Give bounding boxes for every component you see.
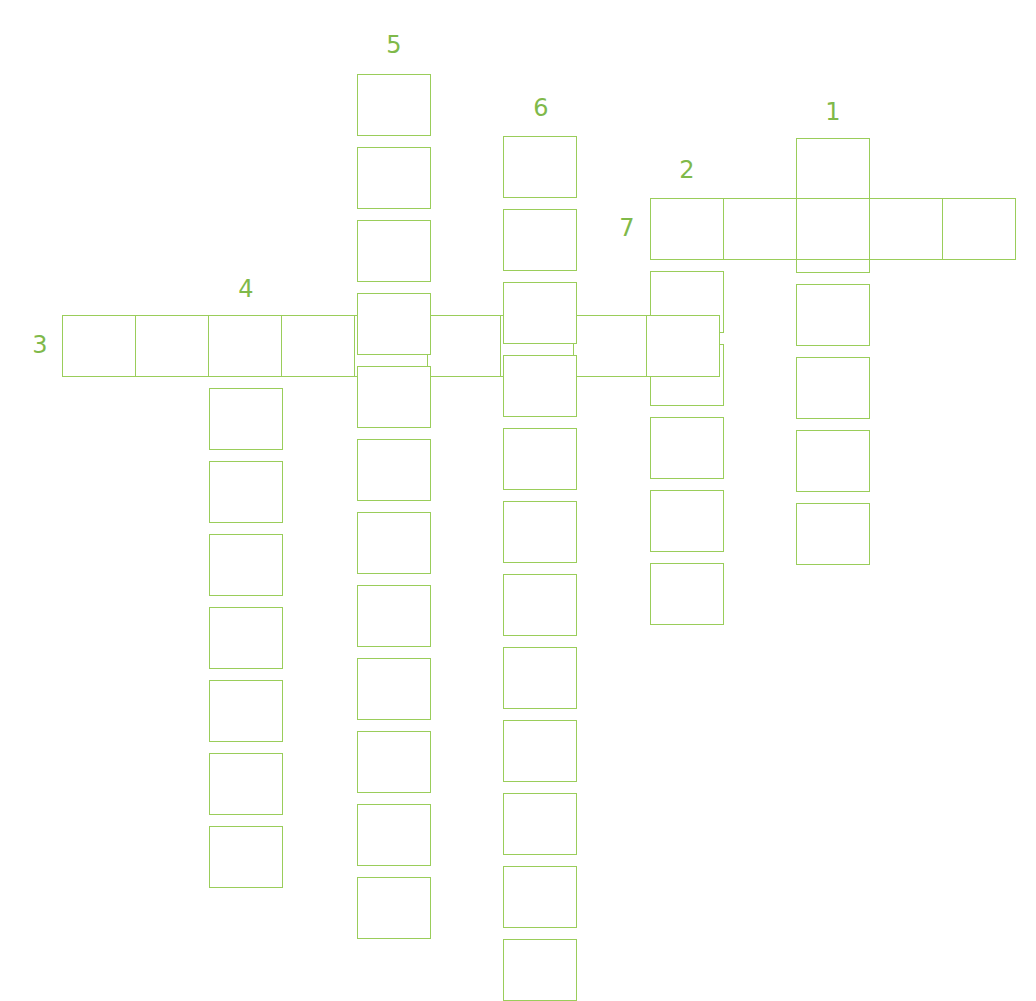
crossword-cell-5-7[interactable] xyxy=(357,512,431,574)
crossword-cell-7-4[interactable] xyxy=(869,198,943,260)
clue-number-5: 5 xyxy=(379,33,409,57)
crossword-cell-6-1[interactable] xyxy=(503,136,577,198)
crossword-cell-5-11[interactable] xyxy=(357,804,431,866)
clue-number-4: 4 xyxy=(231,277,261,301)
crossword-cell-3-3[interactable] xyxy=(208,315,282,377)
crossword-cell-3-8[interactable] xyxy=(573,315,647,377)
crossword-cell-6-11[interactable] xyxy=(503,866,577,928)
crossword-cell-5-3[interactable] xyxy=(357,220,431,282)
crossword-cell-2-1[interactable] xyxy=(650,198,724,260)
crossword-cell-2-4[interactable] xyxy=(650,417,724,479)
crossword-cell-1-1[interactable] xyxy=(796,138,870,200)
crossword-cell-1-5[interactable] xyxy=(796,430,870,492)
crossword-cell-4-8[interactable] xyxy=(209,826,283,888)
clue-number-1: 1 xyxy=(818,100,848,124)
crossword-cell-6-7[interactable] xyxy=(503,574,577,636)
clue-number-6: 6 xyxy=(526,96,556,120)
crossword-cell-6-10[interactable] xyxy=(503,793,577,855)
crossword-cell-7-2[interactable] xyxy=(723,198,797,260)
crossword-cell-4-5[interactable] xyxy=(209,607,283,669)
crossword-cell-4-7[interactable] xyxy=(209,753,283,815)
crossword-cell-6-2[interactable] xyxy=(503,209,577,271)
crossword-cell-6-3[interactable] xyxy=(503,282,577,344)
crossword-cell-3-1[interactable] xyxy=(62,315,136,377)
crossword-cell-5-8[interactable] xyxy=(357,585,431,647)
crossword-cell-6-4[interactable] xyxy=(503,355,577,417)
crossword-cell-6-12[interactable] xyxy=(503,939,577,1001)
crossword-cell-1-3[interactable] xyxy=(796,284,870,346)
crossword-cell-3-2[interactable] xyxy=(135,315,209,377)
crossword-cell-6-9[interactable] xyxy=(503,720,577,782)
crossword-cell-4-6[interactable] xyxy=(209,680,283,742)
crossword-cell-7-3[interactable] xyxy=(796,198,870,260)
crossword-cell-2-5[interactable] xyxy=(650,490,724,552)
crossword-cell-2-6[interactable] xyxy=(650,563,724,625)
crossword-cell-5-6[interactable] xyxy=(357,439,431,501)
crossword-cell-5-10[interactable] xyxy=(357,731,431,793)
crossword-cell-5-4[interactable] xyxy=(357,293,431,355)
crossword-cell-5-9[interactable] xyxy=(357,658,431,720)
crossword-cell-4-3[interactable] xyxy=(209,461,283,523)
clue-number-7: 7 xyxy=(612,216,642,240)
crossword-cell-5-12[interactable] xyxy=(357,877,431,939)
clue-number-2: 2 xyxy=(672,158,702,182)
crossword-cell-4-4[interactable] xyxy=(209,534,283,596)
crossword-cell-1-6[interactable] xyxy=(796,503,870,565)
crossword-cell-3-6[interactable] xyxy=(427,315,501,377)
crossword-cell-5-5[interactable] xyxy=(357,366,431,428)
crossword-cell-3-9[interactable] xyxy=(646,315,720,377)
crossword-cell-1-4[interactable] xyxy=(796,357,870,419)
crossword-cell-7-5[interactable] xyxy=(942,198,1016,260)
crossword-cell-5-2[interactable] xyxy=(357,147,431,209)
crossword-cell-6-6[interactable] xyxy=(503,501,577,563)
clue-number-3: 3 xyxy=(25,333,55,357)
crossword-cell-3-4[interactable] xyxy=(281,315,355,377)
crossword-cell-6-5[interactable] xyxy=(503,428,577,490)
crossword-cell-5-1[interactable] xyxy=(357,74,431,136)
crossword-cell-6-8[interactable] xyxy=(503,647,577,709)
crossword-cell-4-2[interactable] xyxy=(209,388,283,450)
